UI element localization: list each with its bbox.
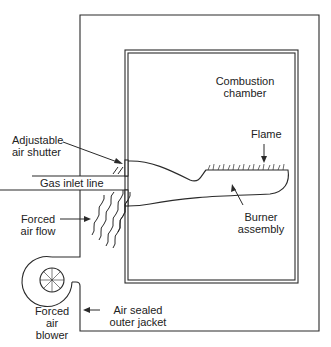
gas-inlet-line-label: Gas inlet line [40,177,104,189]
forced-air-blower-label: Forced air blower [28,305,76,341]
flame-label: Flame [251,128,282,140]
furnace-diagram: Combustion chamber Flame Adjustable air … [0,0,331,347]
air-flow-arrowhead-icon [84,216,91,222]
burner-assembly-label: Burner assembly [226,211,296,235]
blower-spokes-icon [40,268,64,292]
adjustable-air-shutter-label: Adjustable air shutter [12,134,63,158]
diagram-drawing [0,0,331,347]
jacket-arrowhead-icon [83,307,90,313]
flame-arrowhead-icon [261,156,267,163]
air-shutter-plate-top [125,160,128,176]
burner-assembly [128,161,288,206]
shutter-arrow [63,142,120,163]
flame-icon [208,164,284,170]
forced-air-flow-label: Forced air flow [14,213,62,237]
outer-jacket [72,15,319,331]
burner-arrow [234,188,243,205]
blower-housing [22,256,72,306]
shutter-arrowhead-icon [114,158,123,164]
combustion-chamber-label: Combustion chamber [200,75,290,99]
air-sealed-outer-jacket-label: Air sealed outer jacket [102,304,174,328]
air-shutter-slats-icon [113,167,123,174]
